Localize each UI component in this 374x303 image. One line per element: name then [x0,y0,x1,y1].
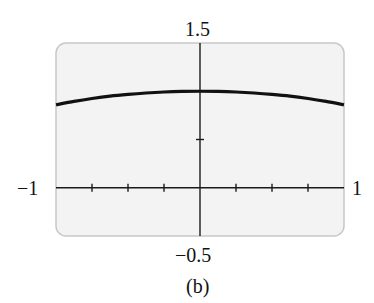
y-max-label: 1.5 [185,19,210,39]
x-min-label: −1 [17,178,38,198]
figure-caption: (b) [186,276,209,296]
y-min-label: −0.5 [175,245,211,265]
x-max-label: 1 [352,178,362,198]
